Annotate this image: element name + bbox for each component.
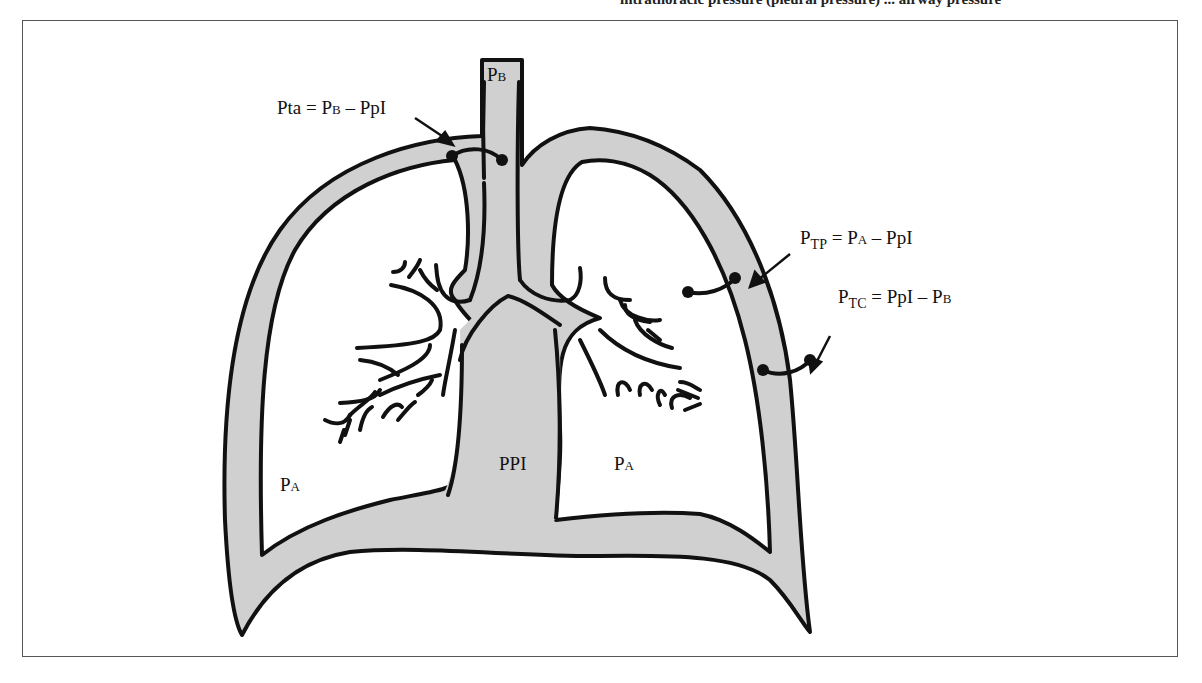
label-pleural-pressure: PPI: [499, 453, 526, 474]
label-transchest-pressure: PTC = PpI – PB: [838, 286, 952, 311]
lung-pressure-diagram: PB Pta = PB – PpI PTP = PA – PpI PTC = P…: [0, 0, 1202, 683]
label-transairway-pressure: Pta = PB – PpI: [277, 97, 386, 118]
label-transpulmonary-pressure: PTP = PA – PpI: [800, 227, 913, 252]
